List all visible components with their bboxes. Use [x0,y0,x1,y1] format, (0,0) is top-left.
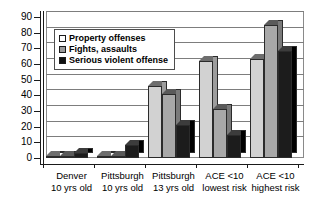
x-axis-line [40,164,304,165]
legend-label-serious-violent-offense: Serious violent offense [69,55,168,66]
bar-face [278,51,292,158]
legend-item-fights-assaults: Fights, assaults [59,44,168,55]
bar-side [292,46,297,153]
y-tick-0 [34,158,41,159]
bar-top [162,89,176,94]
y-tick-50 [34,80,41,81]
legend-item-serious-violent-offense: Serious violent offense [59,55,168,66]
bar-2-2 [111,156,125,158]
bar-face [60,156,74,158]
y-axis-label-10: 10 [0,137,32,147]
y-axis-label-50: 50 [0,75,32,85]
y-axis-label-90: 90 [0,12,32,22]
bar-top [97,151,111,156]
y-tick-60 [34,64,41,65]
bar-5-3 [278,51,292,158]
bar-top [213,104,227,109]
y-axis-line-inner [43,11,44,164]
bar-3-3 [176,125,190,158]
legend-swatch-fights-assaults [59,46,66,53]
bar-4-1 [199,61,213,158]
bar-group-5 [250,17,301,164]
bar-top [199,56,213,61]
bar-side [139,140,144,153]
bar-top [250,54,264,59]
gridline-90 [46,11,304,12]
bar-side [190,120,195,153]
x-tick-origin [43,164,44,168]
y-axis-label-20: 20 [0,122,32,132]
bar-top [111,151,125,156]
y-axis-label-60: 60 [0,59,32,69]
bar-1-2 [60,156,74,158]
bar-group-4 [199,17,250,164]
category-label-line1: Pittsburgh [101,170,144,181]
bar-face [148,86,162,158]
category-label-5: ACE <10highest risk [241,170,310,194]
chart-legend: Property offenses Fights, assaults Serio… [54,29,175,70]
legend-swatch-serious-violent-offense [59,57,66,64]
bar-side [88,148,93,153]
bar-4-3 [227,135,241,159]
bar-face [162,94,176,158]
bar-side [241,130,246,154]
bar-3-2 [162,94,176,158]
bar-4-2 [213,109,227,158]
bar-top [148,81,162,86]
bar-face [213,109,227,158]
bar-2-1 [97,156,111,158]
bar-top [125,140,139,145]
y-tick-40 [34,95,41,96]
x-tick-4 [247,164,248,168]
bar-face [97,156,111,158]
category-label-line1: Denver [56,170,87,181]
bar-top [74,148,88,153]
bar-face [111,156,125,158]
bar-top [60,151,74,156]
x-tick-3 [196,164,197,168]
bar-2-3 [125,145,139,158]
y-tick-10 [34,142,41,143]
bar-1-3 [74,153,88,158]
bar-3-1 [148,86,162,158]
legend-swatch-property-offenses [59,35,66,42]
y-axis-label-30: 30 [0,106,32,116]
category-label-line1: Pittsburgh [152,170,195,181]
y-axis-label-80: 80 [0,28,32,38]
category-label-line1: ACE <10 [205,170,243,181]
bar-top [264,20,278,25]
bar-top [46,151,60,156]
y-tick-20 [34,127,41,128]
y-axis-label-40: 40 [0,90,32,100]
bar-5-2 [264,25,278,158]
bar-face [125,145,139,158]
bar-chart: 0102030405060708090 Denver10 yrs oldPitt… [0,0,314,202]
bar-top [176,120,190,125]
bar-face [250,59,264,158]
y-tick-30 [34,111,41,112]
bar-top [227,130,241,135]
bar-1-1 [46,156,60,158]
bar-face [176,125,190,158]
x-tick-1 [94,164,95,168]
legend-label-fights-assaults: Fights, assaults [69,44,137,55]
bar-face [74,153,88,158]
category-label-line1: ACE <10 [256,170,294,181]
bar-face [264,25,278,158]
bar-face [227,135,241,159]
y-axis-line [40,11,41,164]
bar-face [46,156,60,158]
bar-face [199,61,213,158]
legend-item-property-offenses: Property offenses [59,33,168,44]
y-tick-90 [34,17,41,18]
x-tick-5 [298,164,299,168]
x-tick-2 [145,164,146,168]
legend-label-property-offenses: Property offenses [69,33,146,44]
bar-top [278,46,292,51]
y-tick-80 [34,33,41,34]
category-label-line2: highest risk [241,182,310,194]
y-axis-label-0: 0 [0,153,32,163]
y-axis-label-70: 70 [0,43,32,53]
bar-5-1 [250,59,264,158]
y-tick-70 [34,48,41,49]
